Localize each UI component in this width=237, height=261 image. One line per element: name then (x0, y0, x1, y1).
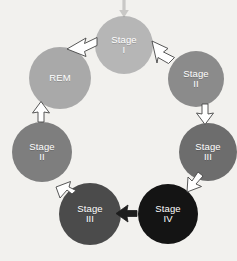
node-circle-stage-2-right (168, 51, 224, 107)
node-circle-stage-3-right (179, 123, 237, 181)
cycle-graphic (0, 0, 237, 261)
sleep-cycle-diagram: StageIStageIIStageIIIStageIVStageIIIStag… (0, 0, 237, 261)
node-circle-stage-1 (95, 16, 153, 74)
node-circle-stage-3-bottom (59, 183, 121, 245)
node-circle-stage-4 (138, 184, 198, 244)
node-circle-rem (29, 47, 91, 109)
node-circle-stage-2-left (12, 122, 72, 182)
